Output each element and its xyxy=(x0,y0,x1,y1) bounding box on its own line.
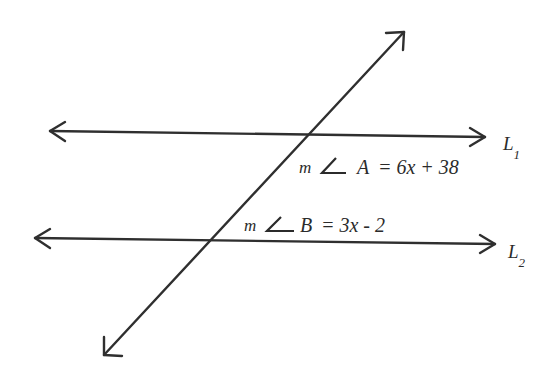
diagram-canvas: L1 L2 m A = 6x + 38 m B = 3x - 2 xyxy=(0,0,546,376)
angle-b-name: B xyxy=(300,214,312,236)
line-l1 xyxy=(50,122,485,146)
angle-a-symbol-icon xyxy=(322,158,346,173)
transversal-segment xyxy=(104,32,404,355)
line-l1-label: L1 xyxy=(502,133,520,162)
angle-b-prefix: m xyxy=(244,216,256,235)
line-l2 xyxy=(35,229,495,253)
angle-b-label: m B = 3x - 2 xyxy=(244,214,385,236)
line-l2-label: L2 xyxy=(507,241,526,270)
angle-a-label: m A = 6x + 38 xyxy=(299,156,459,178)
angle-a-name: A xyxy=(355,156,370,178)
angle-b-symbol-icon xyxy=(267,217,294,231)
angle-b-expression: = 3x - 2 xyxy=(321,214,385,236)
angle-a-expression: = 6x + 38 xyxy=(378,156,459,178)
angle-a-prefix: m xyxy=(299,158,311,177)
line-l2-segment xyxy=(35,238,495,244)
transversal xyxy=(104,32,404,356)
line-l1-segment xyxy=(50,131,485,137)
